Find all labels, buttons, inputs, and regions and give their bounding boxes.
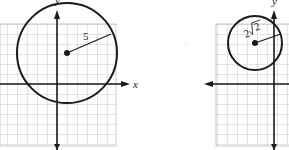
left-x-label: x [132,78,138,90]
left-y-label: y [54,0,60,6]
right-y-down-arrow-icon [271,144,277,150]
right-x-left-arrow-icon [204,81,213,87]
left-figure: 5 x y [0,0,138,150]
right-figure: 2 2 y [204,0,289,150]
left-y-arrow-icon [54,10,60,19]
left-radius-label: 5 [83,30,89,42]
right-y-label: y [271,0,277,7]
left-y-down-arrow-icon [54,144,60,150]
diagram-canvas: 5 x y . : 2 2 y [0,0,289,150]
stray-mark: . : [183,40,188,46]
right-y-arrow-icon [271,10,277,19]
left-x-arrow-icon [121,81,130,87]
